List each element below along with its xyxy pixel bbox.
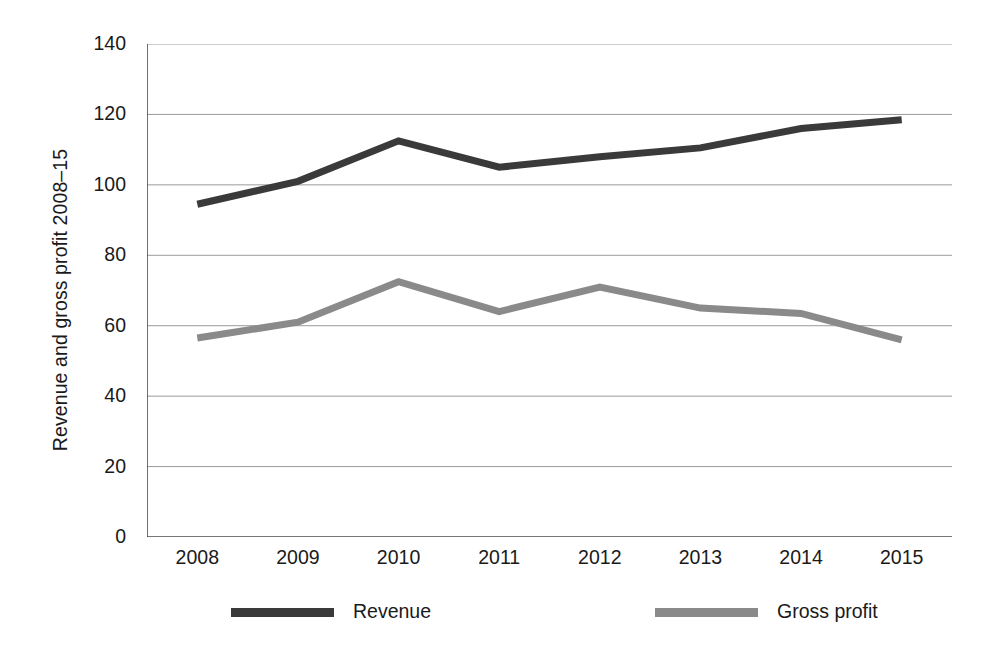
y-tick-label: 140 — [62, 34, 126, 54]
legend-item-gross-profit[interactable]: Gross profit — [655, 598, 878, 626]
y-tick-label: 120 — [62, 104, 126, 124]
legend-swatch-revenue — [231, 608, 334, 617]
y-tick-label: 20 — [62, 457, 126, 477]
x-tick-label-2011: 2011 — [449, 548, 550, 568]
series-line-gross-profit — [197, 282, 901, 340]
x-tick-label-2014: 2014 — [751, 548, 852, 568]
x-tick-label-2010: 2010 — [348, 548, 449, 568]
legend-label: Gross profit — [777, 602, 878, 622]
y-tick-label: 60 — [62, 316, 126, 336]
y-axis-tick-labels: 020406080100120140 — [62, 44, 126, 537]
x-tick-label-2012: 2012 — [550, 548, 651, 568]
y-tick-label: 40 — [62, 386, 126, 406]
series-line-revenue — [197, 120, 901, 205]
plot-area — [147, 44, 952, 537]
x-tick-label-2009: 2009 — [248, 548, 349, 568]
y-tick-label: 0 — [62, 527, 126, 547]
x-tick-label-2015: 2015 — [851, 548, 952, 568]
y-tick-label: 80 — [62, 245, 126, 265]
chart-legend: RevenueGross profit — [147, 598, 952, 628]
plot-svg — [147, 44, 952, 537]
x-tick-label-2013: 2013 — [650, 548, 751, 568]
legend-item-revenue[interactable]: Revenue — [231, 598, 431, 626]
line-chart: Revenue and gross profit 2008–15 0204060… — [0, 0, 998, 648]
legend-swatch-gross-profit — [655, 608, 758, 617]
legend-label: Revenue — [353, 602, 431, 622]
gridlines — [147, 44, 952, 467]
y-tick-label: 100 — [62, 175, 126, 195]
series-lines — [197, 120, 901, 340]
x-axis-tick-labels: 20082009201020112012201320142015 — [147, 548, 952, 576]
axis-lines — [147, 44, 952, 537]
x-tick-label-2008: 2008 — [147, 548, 248, 568]
